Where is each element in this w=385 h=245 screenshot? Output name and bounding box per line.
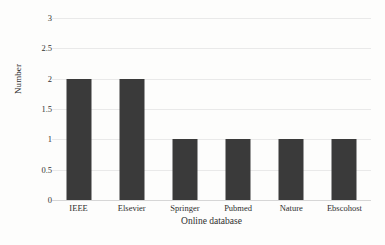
- y-tick-label: 0.5: [26, 166, 52, 175]
- x-tick-label: IEEE: [52, 203, 105, 214]
- plot-area: [52, 18, 371, 200]
- y-tick-label: 3: [26, 14, 52, 23]
- bar-slot: [105, 18, 158, 200]
- x-tick-label: Springer: [158, 203, 211, 214]
- x-axis-tick-labels: IEEEElsevierSpringerPubmedNatureEbscohos…: [52, 203, 371, 217]
- bar-slot: [212, 18, 265, 200]
- bar-slot: [158, 18, 211, 200]
- x-tick-label: Ebscohost: [318, 203, 371, 214]
- bar-series: [52, 18, 371, 200]
- y-tick-label: 2.5: [26, 44, 52, 53]
- bar: [226, 139, 251, 200]
- y-tick-label: 2: [26, 75, 52, 84]
- bar: [172, 139, 197, 200]
- bar-slot: [265, 18, 318, 200]
- bar-slot: [52, 18, 105, 200]
- x-tick-label: Elsevier: [105, 203, 158, 214]
- x-axis-title: Online database: [52, 216, 371, 226]
- x-tick-label: Nature: [265, 203, 318, 214]
- bar-slot: [318, 18, 371, 200]
- bar: [66, 79, 91, 200]
- gridline: [52, 200, 371, 201]
- y-tick-label: 0: [26, 196, 52, 205]
- y-tick-label: 1: [26, 135, 52, 144]
- x-tick-label: Pubmed: [212, 203, 265, 214]
- y-tick-label: 1.5: [26, 105, 52, 114]
- bar: [119, 79, 144, 200]
- bar-chart-figure: Number 00.511.522.53 IEEEElsevierSpringe…: [0, 0, 385, 245]
- bar: [279, 139, 304, 200]
- bar: [332, 139, 357, 200]
